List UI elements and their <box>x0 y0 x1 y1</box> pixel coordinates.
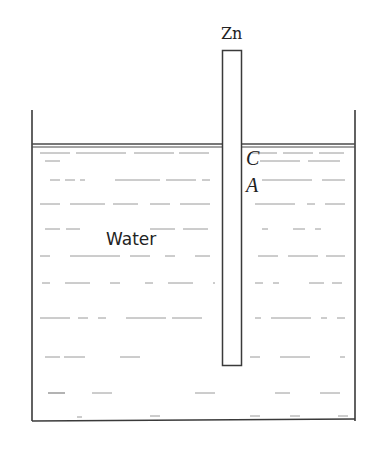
water-texture <box>40 153 350 417</box>
container <box>32 110 355 421</box>
container-bottom <box>32 419 355 421</box>
beaker-diagram <box>0 0 374 453</box>
diagram-canvas: Zn C A Water <box>0 0 374 453</box>
point-c-label: C <box>246 147 259 170</box>
water-surface <box>32 144 355 147</box>
zinc-rod <box>223 51 242 366</box>
point-a-label: A <box>246 174 258 197</box>
zinc-label: Zn <box>221 24 242 43</box>
water-label: Water <box>106 229 156 249</box>
